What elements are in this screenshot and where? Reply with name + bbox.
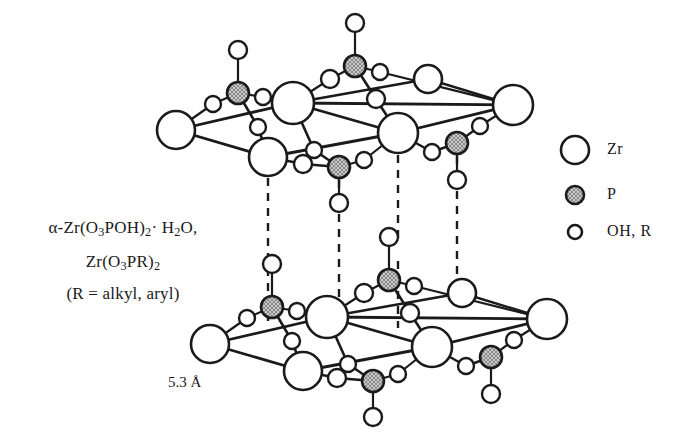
- lower-layer-o-atom: [506, 332, 522, 348]
- legend-open-circle-large: [561, 136, 589, 164]
- lower-layer-zr-atom: [527, 299, 567, 339]
- upper-layer-o-atom: [330, 194, 348, 212]
- upper-layer-zr-atom: [493, 85, 533, 125]
- upper-layer-o-atom: [472, 118, 488, 134]
- upper-layer-p-atom: [227, 82, 249, 104]
- lower-layer-o-atom: [458, 358, 474, 374]
- upper-layer-p-atom: [344, 55, 366, 77]
- lower-layer-zr-atom: [412, 327, 452, 367]
- lower-layer-o-atom: [390, 366, 406, 382]
- lower-layer-o-atom: [380, 228, 398, 246]
- lower-layer-p-atom: [480, 346, 502, 368]
- legend-label-zr: Zr: [607, 140, 623, 158]
- legend-label-p: P: [607, 185, 617, 203]
- upper-layer-zr-atom: [249, 138, 287, 176]
- lower-layer-p-atom: [378, 269, 400, 291]
- lower-layer-zr-atom: [448, 279, 476, 307]
- upper-layer-o-atom: [255, 89, 271, 105]
- upper-layer-bond: [293, 103, 513, 105]
- lower-layer-p-atom: [362, 370, 384, 392]
- lower-layer-o-atom: [239, 310, 255, 326]
- upper-layer-p-atom: [446, 132, 468, 154]
- lower-layer-o-atom: [289, 303, 305, 319]
- lower-layer-o-atom: [406, 278, 422, 294]
- lower-layer-o-atom: [401, 304, 419, 322]
- lower-layer-o-atom: [328, 369, 346, 387]
- interlayer-distance-label: 5.3 Å: [168, 374, 201, 391]
- lower-layer-o-atom: [482, 385, 500, 403]
- upper-layer-o-atom: [448, 171, 466, 189]
- upper-layer-o-atom: [229, 41, 247, 59]
- upper-layer-zr-atom: [272, 82, 314, 124]
- lower-layer-zr-atom: [191, 325, 229, 363]
- upper-layer-zr-atom: [157, 111, 195, 149]
- upper-layer-o-atom: [424, 144, 440, 160]
- upper-layer-o-atom: [356, 152, 372, 168]
- lower-layer-p-atom: [261, 296, 283, 318]
- upper-layer-o-atom: [346, 14, 364, 32]
- upper-layer-p-atom: [328, 156, 350, 178]
- upper-layer-o-atom: [294, 155, 312, 173]
- lower-layer-zr-atom: [284, 352, 322, 390]
- upper-layer-o-atom: [250, 119, 266, 135]
- upper-layer-zr-atom: [414, 65, 442, 93]
- upper-layer-o-atom: [321, 70, 339, 88]
- formula-line-1: α-Zr(O3POH)2· H2O,: [8, 218, 238, 240]
- legend-label-oh-r: OH, R: [607, 222, 652, 240]
- lower-layer-zr-atom: [306, 296, 348, 338]
- upper-layer-zr-atom: [378, 113, 418, 153]
- legend-icons-group: [561, 136, 589, 239]
- upper-layer-o-atom: [205, 96, 221, 112]
- lower-layer-bond: [327, 317, 547, 319]
- formula-line-2: Zr(O3PR)2: [8, 252, 238, 274]
- zirconium-phosphate-figure: α-Zr(O3POH)2· H2O, Zr(O3PR)2 (R = alkyl,…: [0, 0, 697, 448]
- lower-layer-o-atom: [284, 333, 300, 349]
- upper-layer-o-atom: [372, 64, 388, 80]
- lower-layer-o-atom: [364, 408, 382, 426]
- upper-layer-o-atom: [367, 90, 385, 108]
- legend-hatched-circle-mid: [566, 186, 584, 204]
- lower-layer-o-atom: [355, 284, 373, 302]
- formula-line-3: (R = alkyl, aryl): [8, 284, 238, 304]
- lower-layer-o-atom: [263, 255, 281, 273]
- legend-open-circle-small: [568, 225, 582, 239]
